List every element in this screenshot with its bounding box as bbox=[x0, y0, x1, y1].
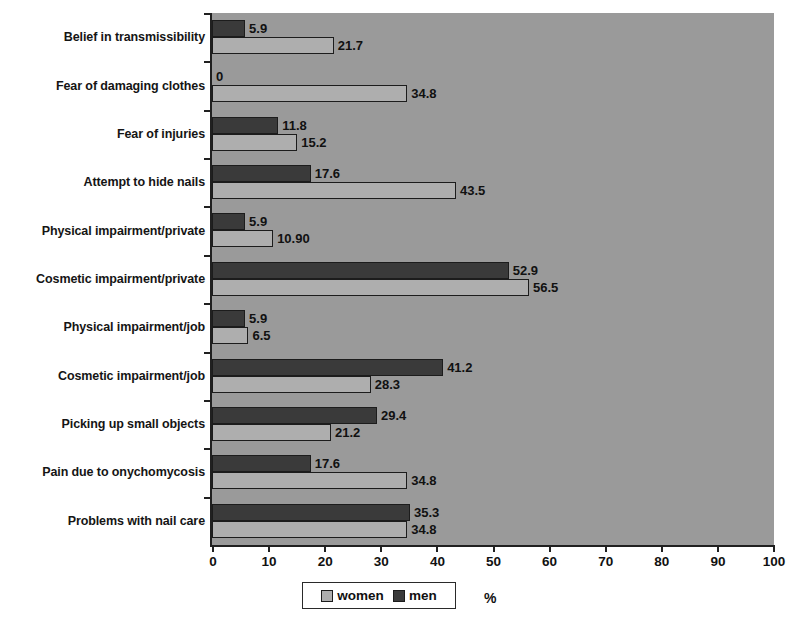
x-axis-tick bbox=[380, 545, 382, 552]
category-label: Cosmetic impairment/private bbox=[36, 272, 205, 286]
y-axis-tick bbox=[204, 448, 211, 450]
x-axis-tick-label: 20 bbox=[318, 554, 333, 569]
category-row: Pain due to onychomycosis17.634.8 bbox=[0, 448, 801, 496]
category-label: Fear of damaging clothes bbox=[56, 79, 205, 93]
x-axis-tick-label: 100 bbox=[763, 554, 786, 569]
y-axis-tick bbox=[204, 206, 211, 208]
y-axis-tick bbox=[204, 303, 211, 305]
legend-swatch-icon bbox=[321, 590, 333, 602]
bar-men bbox=[212, 407, 377, 424]
y-axis-tick bbox=[204, 352, 211, 354]
bar-value-men: 0 bbox=[212, 68, 223, 85]
x-axis-tick bbox=[212, 545, 214, 552]
bar-value-men: 5.9 bbox=[245, 213, 267, 230]
y-axis-tick bbox=[204, 61, 211, 63]
bar-value-men: 35.3 bbox=[410, 504, 439, 521]
bar-men bbox=[212, 504, 410, 521]
category-label: Problems with nail care bbox=[68, 514, 205, 528]
category-label: Picking up small objects bbox=[62, 417, 205, 431]
category-row: Cosmetic impairment/private52.956.5 bbox=[0, 255, 801, 303]
bar-value-women: 21.2 bbox=[331, 424, 360, 441]
y-axis-tick bbox=[204, 13, 211, 15]
bar-women bbox=[212, 37, 334, 54]
category-label: Pain due to onychomycosis bbox=[42, 465, 205, 479]
x-axis-tick-label: 80 bbox=[654, 554, 669, 569]
category-label: Belief in transmissibility bbox=[64, 30, 205, 44]
bar-chart: Belief in transmissibility5.921.7Fear of… bbox=[0, 0, 801, 638]
bar-men bbox=[212, 165, 311, 182]
bar-women bbox=[212, 182, 456, 199]
category-row: Problems with nail care35.334.8 bbox=[0, 497, 801, 545]
x-axis-tick-label: 90 bbox=[710, 554, 725, 569]
bar-men bbox=[212, 455, 311, 472]
bar-men bbox=[212, 310, 245, 327]
x-axis-tick-label: 40 bbox=[430, 554, 445, 569]
bar-men bbox=[212, 213, 245, 230]
x-axis-tick bbox=[268, 545, 270, 552]
legend-label: women bbox=[337, 588, 384, 603]
y-axis-tick bbox=[204, 400, 211, 402]
bar-value-men: 52.9 bbox=[509, 262, 538, 279]
x-axis-tick-label: 70 bbox=[598, 554, 613, 569]
category-row: Fear of damaging clothes034.8 bbox=[0, 61, 801, 109]
x-axis-tick-label: 10 bbox=[262, 554, 277, 569]
legend-label: men bbox=[409, 588, 437, 603]
x-axis-tick bbox=[773, 545, 775, 552]
bar-value-women: 28.3 bbox=[371, 376, 400, 393]
x-axis-unit-label: % bbox=[484, 590, 496, 606]
x-axis-tick bbox=[605, 545, 607, 552]
category-row: Physical impairment/job5.96.5 bbox=[0, 303, 801, 351]
bar-value-men: 17.6 bbox=[311, 455, 340, 472]
bar-value-women: 6.5 bbox=[248, 327, 270, 344]
bar-women bbox=[212, 521, 407, 538]
bar-value-men: 5.9 bbox=[245, 310, 267, 327]
x-axis-tick bbox=[549, 545, 551, 552]
bar-women bbox=[212, 85, 407, 102]
category-row: Belief in transmissibility5.921.7 bbox=[0, 13, 801, 61]
chart-legend: womenmen bbox=[302, 582, 456, 609]
bar-women bbox=[212, 376, 371, 393]
bar-women bbox=[212, 424, 331, 441]
bar-value-women: 34.8 bbox=[407, 85, 436, 102]
category-label: Attempt to hide nails bbox=[83, 175, 205, 189]
x-axis-tick bbox=[493, 545, 495, 552]
bar-value-men: 17.6 bbox=[311, 165, 340, 182]
legend-item-men: men bbox=[393, 588, 437, 603]
bar-men bbox=[212, 359, 443, 376]
x-axis-tick bbox=[436, 545, 438, 552]
category-row: Fear of injuries11.815.2 bbox=[0, 110, 801, 158]
category-label: Cosmetic impairment/job bbox=[58, 369, 205, 383]
bar-women bbox=[212, 134, 297, 151]
x-axis-tick-label: 0 bbox=[209, 554, 217, 569]
x-axis-tick bbox=[717, 545, 719, 552]
bar-value-women: 56.5 bbox=[529, 279, 558, 296]
bar-value-women: 10.90 bbox=[273, 230, 310, 247]
x-axis-tick-label: 50 bbox=[486, 554, 501, 569]
bar-value-men: 5.9 bbox=[245, 20, 267, 37]
bar-women bbox=[212, 230, 273, 247]
category-row: Picking up small objects29.421.2 bbox=[0, 400, 801, 448]
category-row: Attempt to hide nails17.643.5 bbox=[0, 158, 801, 206]
bar-men bbox=[212, 262, 509, 279]
legend-item-women: women bbox=[321, 588, 384, 603]
bar-value-men: 11.8 bbox=[278, 117, 307, 134]
bar-women bbox=[212, 472, 407, 489]
y-axis-tick bbox=[204, 497, 211, 499]
legend-swatch-icon bbox=[393, 590, 405, 602]
x-axis-tick-label: 30 bbox=[374, 554, 389, 569]
y-axis-tick bbox=[204, 255, 211, 257]
bar-men bbox=[212, 117, 278, 134]
x-axis-tick bbox=[661, 545, 663, 552]
bar-value-women: 15.2 bbox=[297, 134, 326, 151]
bar-value-women: 43.5 bbox=[456, 182, 485, 199]
bar-value-women: 21.7 bbox=[334, 37, 363, 54]
x-axis-tick-label: 60 bbox=[542, 554, 557, 569]
category-label: Physical impairment/job bbox=[64, 320, 206, 334]
y-axis-tick bbox=[204, 110, 211, 112]
bar-value-women: 34.8 bbox=[407, 521, 436, 538]
category-label: Physical impairment/private bbox=[42, 224, 205, 238]
category-row: Cosmetic impairment/job41.228.3 bbox=[0, 352, 801, 400]
category-label: Fear of injuries bbox=[117, 127, 205, 141]
category-row: Physical impairment/private5.910.90 bbox=[0, 206, 801, 254]
bar-women bbox=[212, 279, 529, 296]
